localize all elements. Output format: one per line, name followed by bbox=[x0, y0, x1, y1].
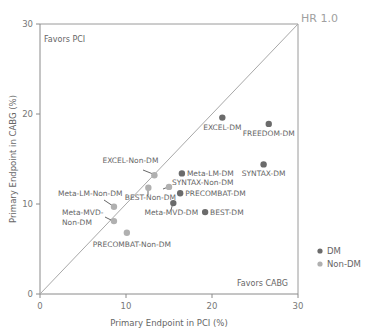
x-tick-label: 20 bbox=[207, 301, 218, 311]
y-tick-label: 20 bbox=[22, 109, 33, 119]
data-point bbox=[179, 170, 185, 176]
data-point bbox=[177, 190, 183, 196]
legend: DMNon-DM bbox=[317, 246, 361, 269]
x-tick-label: 30 bbox=[293, 301, 304, 311]
x-axis-label: Primary Endpoint in PCI (%) bbox=[110, 318, 228, 328]
point-label: BEST-Non-DM bbox=[125, 193, 176, 202]
y-axis-label: Primary Endpoint in CABG (%) bbox=[8, 95, 18, 223]
legend-label: Non-DM bbox=[327, 259, 361, 269]
legend-marker bbox=[317, 248, 322, 253]
hr-label: HR 1.0 bbox=[301, 12, 338, 25]
data-point bbox=[219, 114, 225, 120]
point-label: SYNTAX-DM bbox=[242, 169, 286, 178]
data-point bbox=[266, 121, 272, 127]
point-label: Meta-MVD-DM bbox=[144, 208, 198, 217]
x-tick-label: 0 bbox=[37, 301, 42, 311]
point-label: SYNTAX-Non-DM bbox=[172, 178, 233, 187]
point-label: EXCEL-Non-DM bbox=[102, 156, 158, 165]
data-point bbox=[202, 209, 208, 215]
legend-marker bbox=[317, 261, 322, 266]
y-tick-label: 10 bbox=[22, 199, 33, 209]
point-label: EXCEL-DM bbox=[203, 123, 241, 132]
hr-reference-line bbox=[40, 24, 298, 294]
data-point bbox=[151, 172, 157, 178]
x-tick-label: 10 bbox=[121, 301, 132, 311]
data-point bbox=[111, 218, 117, 224]
point-label: Meta-MVD- bbox=[62, 208, 104, 217]
data-point bbox=[145, 185, 151, 191]
legend-label: DM bbox=[327, 246, 341, 256]
point-label: PRECOMBAT-DM bbox=[185, 189, 246, 198]
point-label: PRECOMBAT-Non-DM bbox=[93, 240, 171, 249]
y-tick-label: 30 bbox=[22, 19, 33, 29]
favors-pci-label: Favors PCI bbox=[44, 35, 85, 44]
point-label: FREEDOM-DM bbox=[243, 129, 295, 138]
point-label: Non-DM bbox=[62, 218, 92, 227]
y-tick-label: 0 bbox=[28, 289, 33, 299]
data-point bbox=[260, 161, 266, 167]
point-label: Meta-LM-Non-DM bbox=[58, 189, 123, 198]
favors-cabg-label: Favors CABG bbox=[237, 279, 288, 288]
data-point bbox=[111, 204, 117, 210]
point-label: BEST-DM bbox=[210, 208, 244, 217]
scatter-chart: HR 1.0 01020300102030 Favors PCI Favors … bbox=[0, 0, 368, 334]
data-points: EXCEL-DMFREEDOM-DMSYNTAX-DMMeta-LM-DMPRE… bbox=[58, 114, 295, 248]
data-point bbox=[124, 230, 130, 236]
